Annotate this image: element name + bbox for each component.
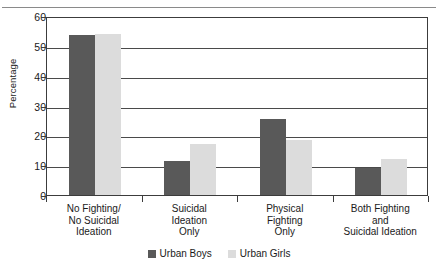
y-tick-label-30: 30 [6,102,46,112]
bar-urban-girls-1[interactable] [95,34,121,195]
bar-group-1 [47,18,143,195]
bar-urban-girls-2[interactable] [190,144,216,195]
category-label-line: Physical [237,203,333,215]
axis-end-tick-2 [428,196,429,202]
bar-urban-boys-1[interactable] [69,35,95,195]
legend-swatch-icon [228,250,236,258]
category-label-line: and [333,215,429,227]
x-axis-category-label-3: PhysicalFightingOnly [237,203,333,238]
category-label-line: Only [237,226,333,238]
bar-urban-girls-4[interactable] [381,159,407,195]
legend-label: Urban Girls [240,249,291,259]
y-tick-label-40: 40 [6,72,46,82]
category-label-line: Only [142,226,238,238]
category-label-line: No Suicidal [46,215,142,227]
y-tick-label-20: 20 [6,131,46,141]
y-tick-label-0: 0 [6,191,46,201]
plot-area [46,17,428,196]
legend-item-urban-girls[interactable]: Urban Girls [228,249,291,259]
axis-end-tick-1 [46,196,47,202]
y-tick-label-60: 60 [6,12,46,22]
chart-legend: Urban BoysUrban Girls [0,249,438,259]
bar-group-3 [238,18,334,195]
category-label-line: Ideation [46,226,142,238]
category-separator-2 [237,196,238,202]
category-label-line: Fighting [237,215,333,227]
category-label-line: Both Fighting [333,203,429,215]
category-label-line: Suicidal Ideation [333,226,429,238]
x-axis-category-label-2: SuicidalIdeationOnly [142,203,238,238]
bar-chart: Percentage 0102030405060 Urban BoysUrban… [0,0,438,270]
bar-urban-girls-3[interactable] [286,140,312,195]
y-axis: Percentage 0102030405060 [0,0,46,270]
category-separator-3 [333,196,334,202]
category-separator-1 [142,196,143,202]
x-axis-category-label-1: No Fighting/No SuicidalIdeation [46,203,142,238]
bar-urban-boys-4[interactable] [355,168,381,195]
bar-group-2 [143,18,239,195]
bar-urban-boys-2[interactable] [164,161,190,195]
legend-label: Urban Boys [160,249,212,259]
category-label-line: No Fighting/ [46,203,142,215]
bar-group-4 [334,18,430,195]
category-label-line: Ideation [142,215,238,227]
x-axis-category-label-4: Both FightingandSuicidal Ideation [333,203,429,238]
y-tick-label-10: 10 [6,161,46,171]
bar-urban-boys-3[interactable] [260,119,286,195]
y-tick-label-50: 50 [6,42,46,52]
legend-item-urban-boys[interactable]: Urban Boys [148,249,212,259]
category-label-line: Suicidal [142,203,238,215]
legend-swatch-icon [148,250,156,258]
